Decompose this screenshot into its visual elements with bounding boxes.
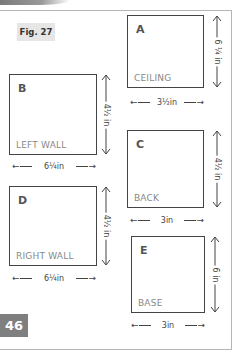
arrow-right-icon: → [76,274,96,283]
arrow-left-icon: ← [130,98,150,107]
dimension-label: 3½in [157,98,177,107]
dimension-label: 6 ¼ in [212,37,223,66]
panel-a-width-dimension: ← 3½in → [130,96,204,108]
arrow-right-icon: → [184,216,204,225]
panel-e-width-dimension: ← 3in → [131,319,205,331]
page-edge-shadow [0,0,70,5]
dimension-label: 4½ in [101,213,112,240]
arrow-left-icon: ← [131,321,151,330]
arrow-right-icon: → [76,162,96,171]
panel-name: LEFT WALL [16,140,66,150]
arrow-left-icon: ← [130,216,150,225]
dimension-label: 4½ in [101,101,112,128]
panel-b-height-dimension: 4½ in [99,74,113,155]
panel-name: BACK [134,193,159,203]
page-number: 46 [0,314,28,337]
dimension-label: 3in [161,216,173,225]
dimension-label: 3in [162,321,174,330]
arrow-right-icon: → [185,321,205,330]
dimension-label: 6¼in [44,274,64,283]
arrow-right-icon: → [184,98,204,107]
panel-e-height-dimension: 6 in [208,236,222,313]
panel-name: RIGHT WALL [16,251,74,261]
panel-letter: A [136,23,145,36]
panel-a-ceiling: A CEILING [127,15,204,88]
panel-letter: D [18,194,27,207]
dimension-label: 4½ in [212,156,223,183]
panel-e-base: E BASE [131,236,205,313]
panel-c-height-dimension: 4½ in [210,130,224,208]
dimension-label: 6¼in [44,162,64,171]
panel-name: BASE [138,298,163,308]
panel-letter: C [136,138,144,151]
arrow-left-icon: ← [12,274,32,283]
panel-name: CEILING [134,73,171,83]
panel-d-height-dimension: 4½ in [99,186,113,266]
dimension-label: 6 in [210,265,221,284]
panel-a-height-dimension: 6 ¼ in [210,15,224,88]
panel-b-width-dimension: ← 6¼in → [12,160,96,172]
panel-letter: B [18,82,26,95]
arrow-left-icon: ← [12,162,32,171]
figure-label: Fig. 27 [17,23,55,41]
panel-d-right-wall: D RIGHT WALL [9,186,97,266]
panel-c-width-dimension: ← 3in → [130,214,204,226]
panel-b-left-wall: B LEFT WALL [9,74,97,155]
panel-d-width-dimension: ← 6¼in → [12,272,96,284]
panel-c-back: C BACK [127,130,204,208]
panel-letter: E [140,244,148,257]
